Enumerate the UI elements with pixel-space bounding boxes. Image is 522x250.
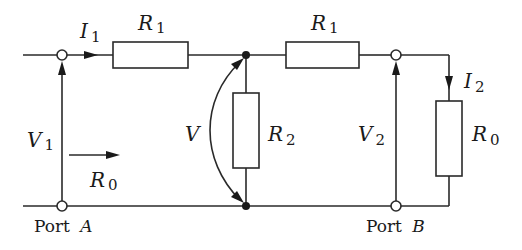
junction-top <box>242 51 250 59</box>
terminal-port-b-top <box>391 50 401 60</box>
resistor-r0-load <box>436 101 462 176</box>
v2-arrowhead-icon <box>392 61 400 75</box>
label-i2: I2 <box>463 69 484 96</box>
label-port-b: Port B <box>366 216 425 236</box>
label-r1-right: R1 <box>310 11 339 37</box>
label-r2: R2 <box>267 122 296 149</box>
resistor-r1-left <box>113 42 188 68</box>
terminal-port-a-top <box>57 50 67 60</box>
circuit-diagram: I1 R1 R1 I2 V1 R0 V R2 V2 R0 Port A Port… <box>0 0 522 250</box>
label-r1-left: R1 <box>137 11 166 37</box>
terminal-port-b-bottom <box>391 201 401 211</box>
label-r0-load: R0 <box>471 122 500 149</box>
i1-arrowhead-icon <box>84 51 98 59</box>
r0-input-arrowhead-icon <box>106 151 120 159</box>
label-v: V <box>185 122 202 146</box>
v1-arrowhead-icon <box>58 61 66 75</box>
resistor-r1-right <box>286 42 359 68</box>
resistor-r2 <box>233 93 259 168</box>
label-v2: V2 <box>358 122 385 149</box>
junction-bottom <box>242 202 250 210</box>
label-r0-input: R0 <box>89 168 118 194</box>
label-v1: V1 <box>27 128 54 154</box>
label-i1: I1 <box>79 19 100 46</box>
terminal-port-a-bottom <box>57 201 67 211</box>
i2-arrowhead-icon <box>445 76 453 90</box>
label-port-a: Port A <box>34 216 93 236</box>
